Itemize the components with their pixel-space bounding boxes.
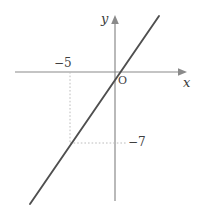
x-tick-label-minus-5: −5 xyxy=(54,57,72,69)
x-axis xyxy=(15,68,187,76)
y-axis xyxy=(111,15,119,201)
y-axis-label: y xyxy=(101,12,108,25)
coordinate-plane-figure: y x −5 −7 O xyxy=(0,0,199,211)
plotted-line xyxy=(30,16,159,204)
plot-canvas xyxy=(0,0,199,211)
origin-label: O xyxy=(118,75,127,86)
x-axis-label: x xyxy=(183,76,190,89)
y-tick-label-minus-7: −7 xyxy=(128,136,146,148)
